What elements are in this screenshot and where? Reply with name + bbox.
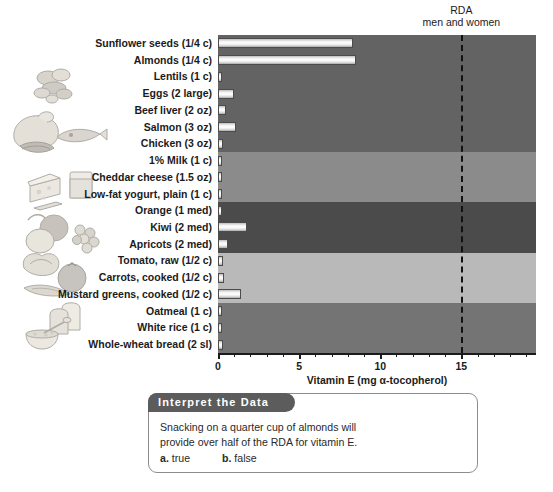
x-tick-minor [315,353,316,357]
x-tick-minor [364,353,365,357]
category-labels: Sunflower seeds (1/4 c)Almonds (1/4 c)Le… [0,35,216,353]
group-band-protein-foods [218,35,536,152]
category-label: Oatmeal (1 c) [146,305,212,318]
option-b-marker: b. [222,452,231,464]
x-tick-major [218,353,220,359]
category-label: Sunflower seeds (1/4 c) [95,37,212,50]
category-label: Eggs (2 large) [143,87,212,100]
category-label: White rice (1 c) [137,321,212,334]
bar [218,323,222,333]
bar [218,256,223,266]
x-tick-minor [510,353,511,357]
bar [218,122,236,132]
x-tick-label: 10 [374,360,386,372]
category-label: Carrots, cooked (1/2 c) [99,271,212,284]
bar [218,156,222,166]
x-tick-major [380,353,382,359]
group-band-grains [218,303,536,353]
bar [218,189,222,199]
x-tick-major [299,353,301,359]
category-label: Lentils (1 c) [154,70,212,83]
group-band-dairy-foods [218,152,536,202]
bar [218,172,222,182]
bar [218,340,223,350]
x-tick-minor [332,353,333,357]
x-tick-major [461,353,463,359]
category-label: Almonds (1/4 c) [134,54,212,67]
bar [218,89,234,99]
option-a-marker: a. [160,452,169,464]
x-tick-minor [429,353,430,357]
bar [218,239,228,249]
x-tick-minor [494,353,495,357]
x-axis-title: Vitamin E (mg α-tocopherol) [218,374,536,386]
question-line-1: Snacking on a quarter cup of almonds wil… [160,420,467,435]
bar [218,72,222,82]
x-tick-label: 5 [296,360,302,372]
bar [218,139,223,149]
interpret-header: Interpret the Data [148,393,295,412]
category-label: Mustard greens, cooked (1/2 c) [58,288,212,301]
interpret-the-data-box: Interpret the Data Snacking on a quarter… [148,393,478,473]
category-label: 1% Milk (1 c) [149,154,212,167]
category-label: Cheddar cheese (1.5 oz) [92,171,212,184]
bar [218,306,222,316]
option-b-label[interactable]: false [234,452,256,464]
category-label: Tomato, raw (1/2 c) [118,254,212,267]
rda-reference-line [461,35,463,353]
category-label: Chicken (3 oz) [141,137,212,150]
category-label: Kiwi (2 med) [150,221,212,234]
rda-title: RDA [423,4,501,16]
bar [218,105,226,115]
bar [218,206,222,216]
category-label: Whole-wheat bread (2 sl) [88,338,212,351]
category-label: Orange (1 med) [135,204,212,217]
option-a-label[interactable]: true [172,452,190,464]
x-tick-minor [396,353,397,357]
bar [218,289,241,299]
bar [218,273,224,283]
question-line-2: provide over half of the RDA for vitamin… [160,435,467,450]
group-band-fruits [218,202,536,252]
rda-annotation: RDA men and women [423,4,501,28]
x-tick-minor [234,353,235,357]
vitamin-e-chart-figure: RDA men and women [0,0,553,492]
x-tick-label: 15 [456,360,468,372]
category-label: Apricots (2 med) [129,238,212,251]
bar [218,222,247,232]
x-tick-minor [283,353,284,357]
category-label: Beef liver (2 oz) [134,104,212,117]
plot-area [218,35,536,353]
rda-subtitle: men and women [423,16,501,28]
x-tick-minor [478,353,479,357]
bar [218,55,356,65]
category-label: Salmon (3 oz) [144,121,212,134]
bar [218,38,353,48]
x-tick-minor [413,353,414,357]
x-tick-minor [526,353,527,357]
x-tick-minor [250,353,251,357]
category-label: Low-fat yogurt, plain (1 c) [84,188,212,201]
interpret-body: Snacking on a quarter cup of almonds wil… [160,420,467,466]
x-tick-minor [267,353,268,357]
x-tick-minor [348,353,349,357]
answer-options: a. true b. false [160,451,467,466]
x-tick-label: 0 [215,360,221,372]
group-band-vegetables [218,253,536,303]
x-tick-minor [445,353,446,357]
